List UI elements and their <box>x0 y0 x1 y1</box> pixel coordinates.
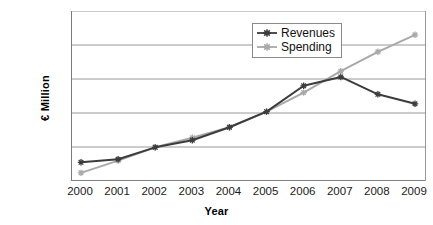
data-point-marker <box>78 170 84 176</box>
series-layer <box>78 32 418 176</box>
data-point-marker <box>226 124 232 130</box>
data-point-marker <box>300 89 306 95</box>
data-point-marker <box>338 68 344 74</box>
chart-legend: Revenues Spending <box>252 23 342 58</box>
legend-label-revenues: Revenues <box>281 27 335 39</box>
legend-swatch-spending <box>257 41 277 53</box>
plot-svg <box>72 11 426 181</box>
data-point-marker <box>338 74 344 80</box>
data-point-marker <box>78 159 84 165</box>
data-point-marker <box>115 156 121 162</box>
data-point-marker <box>412 32 418 38</box>
data-point-marker <box>263 108 269 114</box>
legend-item-spending: Spending <box>257 40 335 54</box>
data-point-marker <box>300 83 306 89</box>
data-point-marker <box>152 144 158 150</box>
data-point-marker <box>412 101 418 107</box>
y-axis-title: € Million <box>39 43 51 153</box>
legend-label-spending: Spending <box>281 41 332 53</box>
series-line-spending <box>81 35 415 173</box>
x-tick-label: 2009 <box>392 186 433 198</box>
line-chart: € Million 80,00070,00060,00050,00040,000… <box>0 0 433 225</box>
legend-swatch-revenues <box>257 27 277 39</box>
plot-area <box>71 11 425 181</box>
data-point-marker <box>189 137 195 143</box>
data-point-marker <box>375 91 381 97</box>
data-point-marker <box>375 49 381 55</box>
x-axis-title: Year <box>0 205 433 217</box>
gridlines <box>72 11 426 181</box>
series-line-revenues <box>81 77 415 162</box>
legend-item-revenues: Revenues <box>257 26 335 40</box>
chart-title <box>60 0 430 2</box>
